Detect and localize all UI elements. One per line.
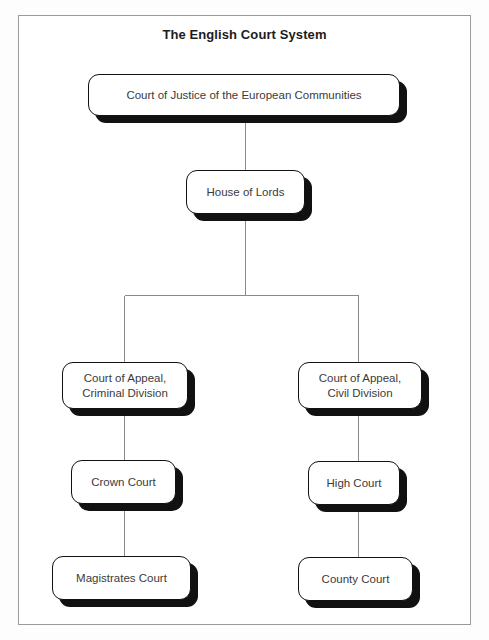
node-face: Court of Appeal, Civil Division <box>298 362 422 409</box>
node-court-of-appeal-criminal-division[interactable]: Court of Appeal, Criminal Division <box>62 362 188 409</box>
node-magistrates-court[interactable]: Magistrates Court <box>52 556 191 600</box>
node-crown-court[interactable]: Crown Court <box>71 460 176 504</box>
node-county-court[interactable]: County Court <box>298 557 413 601</box>
node-court-of-justice-european-communities[interactable]: Court of Justice of the European Communi… <box>88 74 400 116</box>
node-label: County Court <box>316 572 396 587</box>
node-face: Court of Appeal, Criminal Division <box>62 362 188 409</box>
node-face: Court of Justice of the European Communi… <box>88 74 400 116</box>
node-court-of-appeal-civil-division[interactable]: Court of Appeal, Civil Division <box>298 362 422 409</box>
node-label: Court of Justice of the European Communi… <box>120 88 367 103</box>
node-face: House of Lords <box>186 170 305 214</box>
node-face: County Court <box>298 557 413 601</box>
node-face: High Court <box>308 461 400 505</box>
node-label: High Court <box>321 476 388 491</box>
page-title: The English Court System <box>0 27 489 42</box>
node-house-of-lords[interactable]: House of Lords <box>186 170 305 214</box>
node-label: Court of Appeal, Civil Division <box>313 371 407 401</box>
node-high-court[interactable]: High Court <box>308 461 400 505</box>
node-face: Crown Court <box>71 460 176 504</box>
node-label: House of Lords <box>201 185 291 200</box>
node-label: Court of Appeal, Criminal Division <box>76 371 174 401</box>
node-label: Crown Court <box>85 475 162 490</box>
node-face: Magistrates Court <box>52 556 191 600</box>
node-label: Magistrates Court <box>70 571 173 586</box>
